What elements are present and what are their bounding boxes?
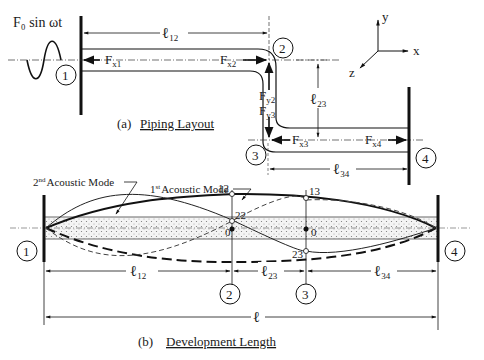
dev-node-4: 4 xyxy=(451,244,458,259)
node-1-label: 1 xyxy=(62,68,69,83)
point-13: 13 xyxy=(309,185,321,197)
caption-b-title: Development Length xyxy=(166,334,277,349)
force-fx3: Fx3 xyxy=(292,132,309,149)
point-zero-b: 0 xyxy=(311,226,317,238)
piping-layout: F₀ sin ωt ℓ12 1 2 Fx1 Fx2 Fy2 Fy3 ℓ2 xyxy=(8,9,436,185)
node-3-label: 3 xyxy=(252,148,259,163)
mode-1-label: 1stAcoustic Mode xyxy=(150,183,229,195)
piping-diagram: F₀ sin ωt ℓ12 1 2 Fx1 Fx2 Fy2 Fy3 ℓ2 xyxy=(0,0,484,360)
force-fy3: Fy3 xyxy=(259,103,276,120)
dev-node-1: 1 xyxy=(23,244,30,259)
svg-text:z: z xyxy=(349,65,355,80)
force-fx2: Fx2 xyxy=(220,52,236,69)
dev-node-3: 3 xyxy=(302,287,309,302)
total-length-label: ℓ xyxy=(253,309,260,325)
caption-a-prefix: (a) xyxy=(117,116,131,131)
node-2-label: 2 xyxy=(279,41,286,56)
svg-text:y: y xyxy=(382,9,389,24)
point-zero-a: 0 xyxy=(225,226,231,238)
coordinate-axes-icon: y x z xyxy=(349,9,420,80)
point-22: 22 xyxy=(235,209,246,221)
caption-a-title: Piping Layout xyxy=(140,116,214,131)
point-23: 23 xyxy=(292,248,304,260)
force-fx4: Fx4 xyxy=(365,132,382,149)
caption-b-prefix: (b) xyxy=(138,334,153,349)
development-length: 12 13 22 0 0 23 2ndAcoustic Mode 1stAcou… xyxy=(10,176,470,349)
mode-2-label: 2ndAcoustic Mode xyxy=(33,176,114,188)
force-fx1: Fx1 xyxy=(105,52,121,69)
node-4-label: 4 xyxy=(422,151,429,166)
svg-text:x: x xyxy=(413,43,420,58)
excitation-label: F₀ sin ωt xyxy=(13,15,62,30)
dev-node-2: 2 xyxy=(226,287,233,302)
